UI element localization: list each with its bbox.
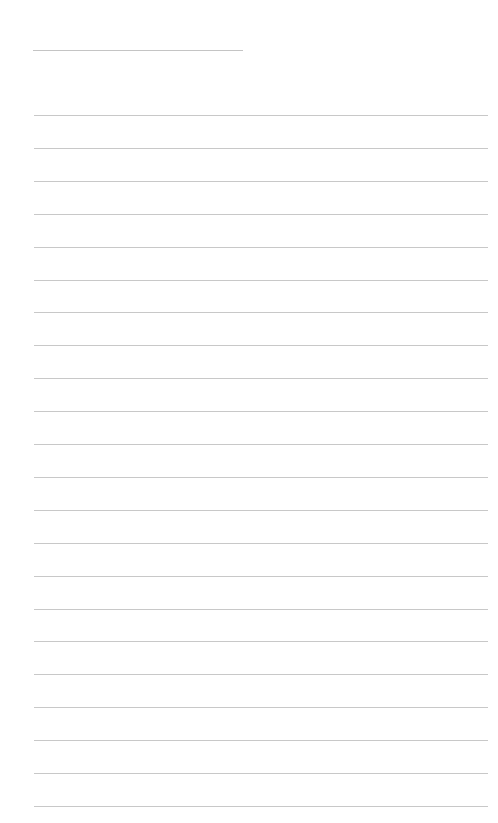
ruled-line	[34, 576, 488, 577]
ruled-line	[34, 312, 488, 313]
ruled-line	[34, 477, 488, 478]
ruled-line	[34, 510, 488, 511]
ruled-line	[34, 707, 488, 708]
ruled-line	[34, 345, 488, 346]
ruled-line	[34, 181, 488, 182]
ruled-line	[34, 214, 488, 215]
title-line	[33, 50, 243, 51]
lined-page	[0, 0, 498, 823]
ruled-line	[34, 280, 488, 281]
ruled-line	[34, 411, 488, 412]
ruled-line	[34, 378, 488, 379]
ruled-line	[34, 148, 488, 149]
ruled-line	[34, 444, 488, 445]
ruled-line	[34, 740, 488, 741]
ruled-line	[34, 674, 488, 675]
ruled-line	[34, 773, 488, 774]
ruled-line	[34, 247, 488, 248]
ruled-line	[34, 115, 488, 116]
ruled-line	[34, 543, 488, 544]
ruled-line	[34, 641, 488, 642]
ruled-line	[34, 609, 488, 610]
ruled-line	[34, 806, 488, 807]
